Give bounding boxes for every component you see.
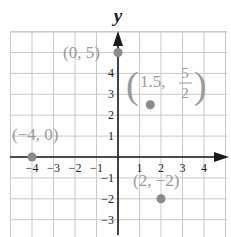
x-tick-label: 4 xyxy=(201,161,207,175)
paren-close: ) xyxy=(194,64,207,107)
point-label-2-neg2: (2, −2) xyxy=(133,171,179,190)
p2-denominator: 2 xyxy=(181,85,189,101)
p2-numerator: 5 xyxy=(181,65,189,81)
y-tick-label: 3 xyxy=(108,87,114,101)
point-label-neg4-0: (−4, 0) xyxy=(12,125,58,144)
x-tick-label: 3 xyxy=(180,161,186,175)
y-axis-label: y xyxy=(112,5,123,26)
y-tick-label: −3 xyxy=(101,213,114,227)
x-axis-arrow-icon xyxy=(214,152,229,162)
point-label-0-5: (0, 5) xyxy=(63,43,100,62)
coordinate-plane: y −4−3−2−112344321−1−2−3 (0, 5) ( 1.5, 5… xyxy=(0,0,231,237)
y-tick-label: −1 xyxy=(101,171,114,185)
x-tick-label: −2 xyxy=(69,161,82,175)
x-tick-label: −4 xyxy=(26,161,39,175)
x-tick-label: −3 xyxy=(47,161,60,175)
data-point xyxy=(146,100,155,109)
data-point xyxy=(157,194,166,203)
y-tick-label: 2 xyxy=(108,108,114,122)
y-tick-label: 1 xyxy=(108,129,114,143)
data-point xyxy=(114,48,123,57)
y-tick-label: −2 xyxy=(101,192,114,206)
point-label-1.5-5-2: ( 1.5, 5 2 ) xyxy=(126,64,207,107)
y-axis-arrow-icon xyxy=(113,31,123,46)
paren-open: ( xyxy=(126,64,139,107)
y-tick-label: 4 xyxy=(108,66,114,80)
data-point xyxy=(28,153,37,162)
p2-x-value: 1.5, xyxy=(140,72,166,91)
tick-labels: −4−3−2−112344321−1−2−3 xyxy=(26,66,207,226)
